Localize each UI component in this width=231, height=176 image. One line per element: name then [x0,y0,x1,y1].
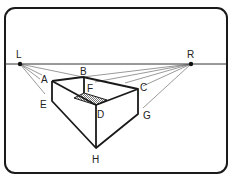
label-e: E [40,99,47,110]
perspective-diagram: L R A B C D E F G H [0,0,231,176]
box [52,77,138,148]
label-g: G [143,110,151,121]
vanishing-point-r [189,62,193,66]
label-r: R [187,49,194,60]
label-a: A [41,74,48,85]
label-h: H [92,154,99,165]
label-b: B [80,66,87,77]
label-l: L [16,49,22,60]
vanishing-point-l [18,62,22,66]
label-d: D [97,109,104,120]
label-c: C [140,82,147,93]
label-f: F [87,83,93,94]
